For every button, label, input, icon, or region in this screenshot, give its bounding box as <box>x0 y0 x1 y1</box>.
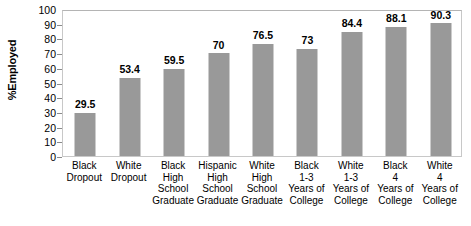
y-tick-label-70: 70 <box>22 49 56 60</box>
x-category-label: Hispanic High School Graduate <box>195 160 241 206</box>
y-tick-label-100: 100 <box>22 5 56 16</box>
bar-value-label: 73 <box>302 35 314 46</box>
bar-value-label: 90.3 <box>431 10 451 21</box>
x-category-label: White 4 Years of College <box>417 160 463 206</box>
x-category-label: White Dropout <box>106 160 152 183</box>
y-tick-mark-60 <box>57 69 62 70</box>
y-tick-label-0: 0 <box>22 152 56 163</box>
bar <box>430 23 451 156</box>
y-tick-label-60: 60 <box>22 64 56 75</box>
bar <box>252 44 273 156</box>
bar <box>119 78 140 156</box>
bar-slot: 90.3 <box>419 11 463 156</box>
bar-value-label: 84.4 <box>342 18 362 29</box>
bar-value-label: 29.5 <box>75 99 95 110</box>
bar-value-label: 88.1 <box>386 13 406 24</box>
x-category-label: White High School Graduate <box>239 160 285 206</box>
y-tick-label-40: 40 <box>22 93 56 104</box>
bar-slot: 53.4 <box>107 11 151 156</box>
y-tick-label-10: 10 <box>22 137 56 148</box>
bar <box>208 53 229 156</box>
bar-slot: 73 <box>285 11 329 156</box>
y-tick-label-20: 20 <box>22 122 56 133</box>
y-tick-mark-10 <box>57 142 62 143</box>
bar <box>164 69 185 156</box>
y-tick-mark-40 <box>57 98 62 99</box>
y-tick-mark-30 <box>57 113 62 114</box>
bar-value-label: 59.5 <box>164 55 184 66</box>
bar-slot: 84.4 <box>330 11 374 156</box>
bar-slot: 88.1 <box>374 11 418 156</box>
y-tick-label-80: 80 <box>22 34 56 45</box>
y-tick-label-50: 50 <box>22 78 56 89</box>
x-category-label: Black Dropout <box>61 160 107 183</box>
bar <box>386 27 407 157</box>
y-tick-mark-90 <box>57 25 62 26</box>
plot-area: 29.553.459.57076.57384.488.190.3 <box>62 10 462 157</box>
y-tick-mark-80 <box>57 39 62 40</box>
bar-slot: 70 <box>196 11 240 156</box>
y-axis-tick-labels: 0102030405060708090100 <box>22 10 56 157</box>
bar-value-label: 76.5 <box>253 30 273 41</box>
bar-slot: 29.5 <box>63 11 107 156</box>
x-category-label: Black 4 Years of College <box>372 160 418 206</box>
y-tick-mark-20 <box>57 128 62 129</box>
bar <box>341 32 362 156</box>
bar-chart: %Employed 0102030405060708090100 29.553.… <box>0 0 471 226</box>
bar <box>75 113 96 156</box>
y-tick-mark-50 <box>57 84 62 85</box>
y-tick-mark-0 <box>57 157 62 158</box>
x-category-label: White 1-3 Years of College <box>328 160 374 206</box>
bars-container: 29.553.459.57076.57384.488.190.3 <box>63 11 461 156</box>
bar-value-label: 53.4 <box>119 64 139 75</box>
x-category-label: Black 1-3 Years of College <box>283 160 329 206</box>
bar <box>297 49 318 156</box>
bar-slot: 76.5 <box>241 11 285 156</box>
x-axis-category-labels: Black DropoutWhite DropoutBlack High Sch… <box>62 160 462 224</box>
bar-slot: 59.5 <box>152 11 196 156</box>
y-tick-mark-70 <box>57 54 62 55</box>
x-category-label: Black High School Graduate <box>150 160 196 206</box>
y-tick-label-90: 90 <box>22 19 56 30</box>
y-axis-title: %Employed <box>6 20 22 120</box>
y-tick-label-30: 30 <box>22 108 56 119</box>
bar-value-label: 70 <box>213 40 225 51</box>
